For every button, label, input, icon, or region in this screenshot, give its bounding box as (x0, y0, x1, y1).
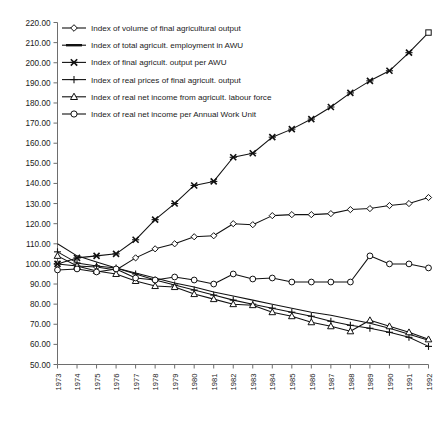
y-tick-label: 130.00 (25, 200, 50, 209)
legend-item[interactable]: Index of total agricult. employment in A… (62, 41, 243, 50)
legend-label: Index of total agricult. employment in A… (91, 41, 243, 50)
y-tick-label: 50.00 (30, 361, 51, 370)
y-tick-label: 150.00 (25, 159, 50, 168)
y-tick-label: 180.00 (25, 99, 50, 108)
x-tick-label: 1990 (386, 374, 395, 391)
y-tick-label: 100.00 (25, 260, 50, 269)
marker-diamond (71, 25, 78, 32)
y-tick-label: 70.00 (30, 320, 51, 329)
marker-circle (230, 271, 236, 277)
x-tick-label: 1977 (132, 374, 141, 391)
legend-label: Index of real net income from agricult. … (91, 93, 272, 102)
x-tick-label: 1985 (288, 374, 297, 391)
marker-circle (74, 266, 80, 272)
x-tick-label: 1974 (73, 374, 82, 391)
y-tick-label: 110.00 (26, 240, 51, 249)
marker-circle (191, 277, 197, 283)
line-chart: 220.00210.00200.00190.00180.00170.00160.… (0, 0, 435, 423)
legend-label: Index of real net income per Annual Work… (91, 110, 257, 119)
x-tick-label: 1992 (425, 374, 434, 391)
series-3 (54, 248, 432, 350)
y-tick-label: 190.00 (25, 79, 50, 88)
series-line (58, 252, 429, 347)
marker-circle (211, 281, 217, 287)
marker-circle (152, 277, 158, 283)
x-tick-label: 1984 (268, 374, 277, 391)
y-tick-label: 160.00 (25, 139, 50, 148)
series-5 (55, 253, 432, 287)
legend-item[interactable]: Index of real net income from agricult. … (62, 93, 272, 102)
marker-circle (172, 274, 178, 280)
y-tick-label: 200.00 (25, 59, 50, 68)
marker-circle (406, 261, 412, 267)
x-tick-label: 1986 (308, 374, 317, 391)
y-tick-label: 120.00 (25, 220, 50, 229)
marker-diamond (230, 221, 236, 227)
marker-diamond (191, 234, 197, 240)
marker-diamond (386, 202, 392, 208)
y-tick-label: 210.00 (25, 39, 50, 48)
x-tick-label: 1982 (229, 374, 238, 391)
legend-item[interactable]: Index of real net income per Annual Work… (62, 110, 257, 119)
marker-diamond (152, 246, 158, 252)
marker-diamond (133, 255, 139, 261)
legend-label: Index of real prices of final agricult. … (91, 76, 242, 85)
marker-diamond (289, 212, 295, 218)
y-tick-label: 220.00 (25, 19, 50, 28)
marker-circle (94, 269, 100, 275)
marker-diamond (406, 200, 412, 206)
y-tick-label: 170.00 (25, 119, 50, 128)
series-0 (54, 194, 431, 273)
marker-diamond (367, 205, 373, 211)
x-tick-label: 1976 (112, 374, 121, 391)
marker-diamond (328, 211, 334, 217)
x-tick-label: 1975 (93, 374, 102, 391)
marker-diamond (211, 233, 217, 239)
marker-diamond (347, 206, 353, 212)
x-axis: 1973197419751976197719781979198019811982… (54, 365, 434, 391)
marker-diamond (172, 241, 178, 247)
marker-diamond (425, 194, 431, 200)
marker-triangle (367, 317, 374, 323)
y-tick-label: 90.00 (30, 280, 51, 289)
x-tick-label: 1988 (347, 374, 356, 391)
marker-circle (55, 267, 61, 273)
legend-item[interactable]: Index of final agricult. output per AWU (62, 58, 227, 67)
marker-diamond (308, 212, 314, 218)
series-line (58, 244, 429, 341)
x-tick-label: 1980 (190, 374, 199, 391)
marker-diamond (250, 222, 256, 228)
y-axis: 220.00210.00200.00190.00180.00170.00160.… (25, 19, 57, 370)
x-tick-label: 1981 (210, 374, 219, 391)
marker-circle (269, 275, 275, 281)
marker-circle (113, 266, 119, 272)
marker-circle (289, 279, 295, 285)
marker-circle (367, 253, 373, 259)
x-tick-label: 1979 (171, 374, 180, 391)
series-1 (58, 244, 429, 341)
marker-circle (250, 276, 256, 282)
marker-circle (328, 279, 334, 285)
x-tick-label: 1983 (249, 374, 258, 391)
marker-diamond (269, 213, 275, 219)
marker-circle (133, 275, 139, 281)
x-tick-label: 1989 (366, 374, 375, 391)
y-tick-label: 80.00 (30, 300, 51, 309)
marker-circle (308, 279, 314, 285)
x-tick-label: 1973 (54, 374, 63, 391)
legend-label: Index of volume of final agricultural ou… (91, 24, 242, 33)
chart-container: 220.00210.00200.00190.00180.00170.00160.… (0, 0, 435, 423)
chart-legend: Index of volume of final agricultural ou… (62, 24, 272, 119)
marker-circle (71, 111, 77, 117)
legend-item[interactable]: Index of real prices of final agricult. … (62, 76, 242, 85)
x-tick-label: 1978 (151, 374, 160, 391)
x-tick-label: 1991 (405, 374, 414, 391)
y-tick-label: 140.00 (25, 179, 50, 188)
marker-circle (426, 265, 432, 271)
marker-square (426, 30, 431, 35)
x-tick-label: 1987 (327, 374, 336, 391)
legend-item[interactable]: Index of volume of final agricultural ou… (62, 24, 242, 33)
y-tick-label: 60.00 (30, 340, 51, 349)
marker-circle (347, 279, 353, 285)
legend-label: Index of final agricult. output per AWU (91, 58, 227, 67)
